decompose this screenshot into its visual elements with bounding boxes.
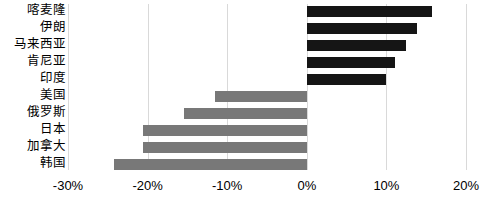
- x-axis-tick-label: -30%: [53, 176, 83, 196]
- category-label: 俄罗斯: [0, 105, 66, 119]
- bar: [143, 125, 307, 136]
- bar: [143, 142, 307, 153]
- bar: [307, 6, 432, 17]
- bar: [114, 159, 307, 170]
- bar: [307, 74, 387, 85]
- bar: [215, 91, 307, 102]
- bar: [184, 108, 307, 119]
- category-label: 美国: [0, 88, 66, 102]
- gridline: [466, 4, 467, 170]
- category-label: 日本: [0, 122, 66, 136]
- x-axis-tick-label: 10%: [373, 176, 399, 196]
- x-axis-tick-label: -10%: [212, 176, 242, 196]
- value-axis: -30%-20%-10%0%10%20%: [0, 176, 485, 200]
- category-label: 肯尼亚: [0, 54, 66, 68]
- bar: [307, 40, 407, 51]
- category-label: 喀麦隆: [0, 3, 66, 17]
- category-label: 韩国: [0, 156, 66, 170]
- gridline: [68, 4, 69, 170]
- bar: [307, 23, 417, 34]
- category-label: 印度: [0, 71, 66, 85]
- x-axis-tick-label: 20%: [453, 176, 479, 196]
- category-axis: 喀麦隆伊朗马来西亚肯尼亚印度美国俄罗斯日本加拿大韩国: [0, 0, 66, 174]
- category-label: 伊朗: [0, 20, 66, 34]
- category-label: 加拿大: [0, 139, 66, 153]
- x-axis-tick-label: -20%: [132, 176, 162, 196]
- category-label: 马来西亚: [0, 37, 66, 51]
- bar-chart: 喀麦隆伊朗马来西亚肯尼亚印度美国俄罗斯日本加拿大韩国 -30%-20%-10%0…: [0, 0, 485, 213]
- x-axis-tick-label: 0%: [297, 176, 316, 196]
- bar: [307, 57, 395, 68]
